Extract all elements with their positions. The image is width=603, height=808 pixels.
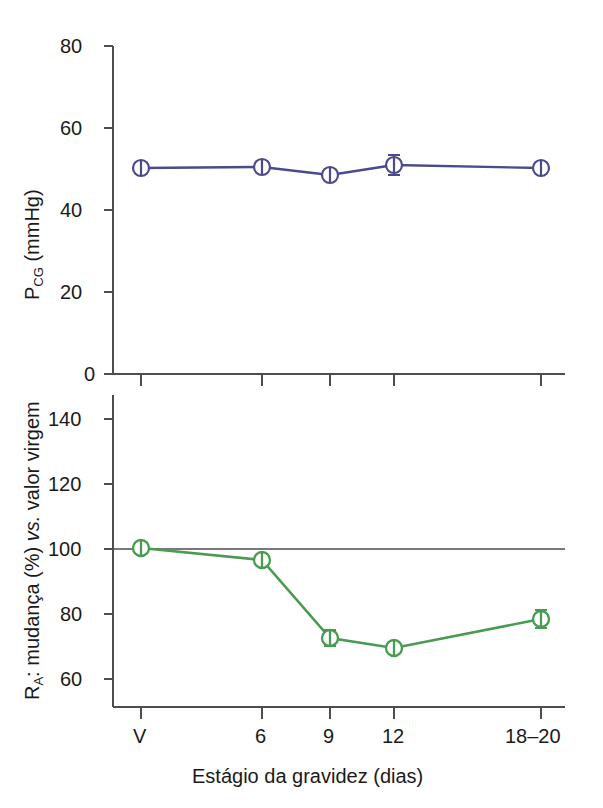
top-panel-axes [104, 46, 565, 386]
top-yaxis-title-unit: (mmHg) [21, 189, 43, 267]
bottom-ytick-label-60: 60 [60, 669, 82, 689]
bottom-yaxis-title-base: R [21, 686, 43, 700]
chart-canvas [0, 0, 603, 808]
top-yaxis-title-subscript: CG [31, 267, 46, 287]
bottom-yaxis-title-mid: : mudança (%) [21, 541, 43, 677]
bottom-yaxis-title-subscript: A [31, 677, 46, 686]
bottom-ytick-label-140: 140 [48, 409, 81, 429]
top-ytick-label-40: 40 [60, 200, 82, 220]
bottom-yaxis-title-italic: vs. [21, 516, 43, 542]
top-yaxis-title-base: P [21, 287, 43, 300]
top-ytick-label-80: 80 [60, 36, 82, 56]
top-yaxis-title: PCG (mmHg) [22, 189, 45, 300]
bottom-yaxis-title: RA: mudança (%) vs. valor virgem [22, 401, 45, 700]
bottom-ytick-label-80: 80 [60, 604, 82, 624]
bottom-panel-axes [104, 395, 565, 719]
bottom-series-ra [133, 540, 549, 656]
top-ytick-label-60: 60 [60, 118, 82, 138]
top-ytick-label-0: 0 [84, 364, 95, 384]
bottom-yaxis-title-end: valor virgem [21, 401, 43, 515]
xtick-label-12: 12 [382, 726, 404, 746]
bottom-ytick-label-120: 120 [48, 474, 81, 494]
xtick-label-v: V [133, 726, 146, 746]
figure-panel-container: 80 60 40 20 0 PCG (mmHg) 140 120 100 80 … [0, 0, 603, 808]
xtick-label-9: 9 [323, 726, 334, 746]
xtick-label-18-20: 18–20 [505, 726, 561, 746]
bottom-ytick-label-100: 100 [48, 539, 81, 559]
top-series-pcg [133, 155, 549, 183]
top-ytick-label-20: 20 [60, 282, 82, 302]
xaxis-title: Estágio da gravidez (dias) [192, 766, 423, 786]
xtick-label-6: 6 [255, 726, 266, 746]
